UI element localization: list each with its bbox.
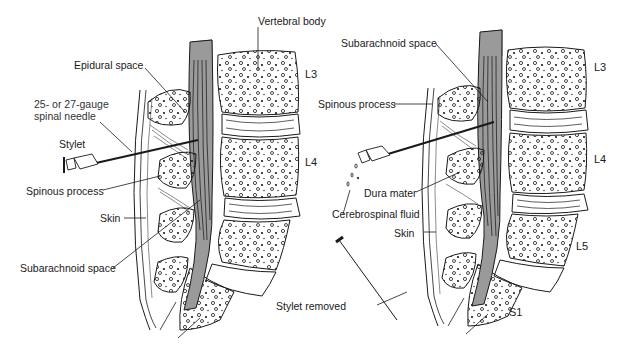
disc-l3-l4 [510, 110, 588, 133]
disc-l4-l5 [224, 198, 300, 219]
label-needle-gauge: 25- or 27-gauge [34, 98, 109, 110]
spinous-process-4 [154, 257, 188, 293]
disc-l4-l5 [512, 194, 588, 214]
spinous-process-1 [438, 86, 480, 122]
label-stylet: Stylet [59, 138, 85, 150]
level-label-l3: L3 [305, 68, 317, 80]
vertebra-l4 [220, 137, 298, 198]
disc-l3-l4 [222, 114, 300, 137]
level-label-l4-right: L4 [594, 153, 606, 165]
label-spinal-needle: spinal needle [34, 110, 96, 122]
spinous-process-3 [446, 204, 482, 239]
label-subarachnoid-space-right: Subarachnoid space [341, 37, 437, 49]
level-label-l4: L4 [305, 156, 317, 168]
level-label-l3-right: L3 [594, 61, 606, 73]
csf-drops [347, 164, 359, 186]
label-dura-mater: Dura mater [364, 187, 417, 199]
spinous-process-4 [442, 253, 476, 289]
needle-hub [358, 146, 390, 163]
label-spinous-process-right: Spinous process [318, 98, 396, 110]
level-label-s1-right: S1 [509, 306, 522, 318]
right-panel-spine [336, 30, 588, 334]
needle-hub [64, 154, 98, 173]
vertebra-l4 [508, 133, 586, 194]
skin-layer [134, 90, 150, 330]
spinous-process-2 [446, 148, 484, 184]
vertebra-l5 [506, 214, 578, 266]
label-subarachnoid-space: Subarachnoid space [20, 262, 116, 274]
level-label-l5-right: L5 [576, 240, 588, 252]
vertebra-l5 [218, 220, 290, 270]
skin-layer [422, 88, 438, 326]
vertebra-l3 [506, 47, 586, 111]
label-stylet-removed: Stylet removed [276, 300, 346, 312]
label-vertebral-body: Vertebral body [258, 15, 326, 27]
label-spinous-process: Spinous process [26, 185, 104, 197]
spinous-process-3 [158, 208, 194, 243]
label-cerebrospinal-fluid: Cerebrospinal fluid [332, 208, 420, 220]
label-skin: Skin [100, 212, 120, 224]
label-skin-right: Skin [394, 227, 414, 239]
label-epidural-space: Epidural space [74, 59, 143, 71]
spinous-process-2 [158, 152, 196, 188]
